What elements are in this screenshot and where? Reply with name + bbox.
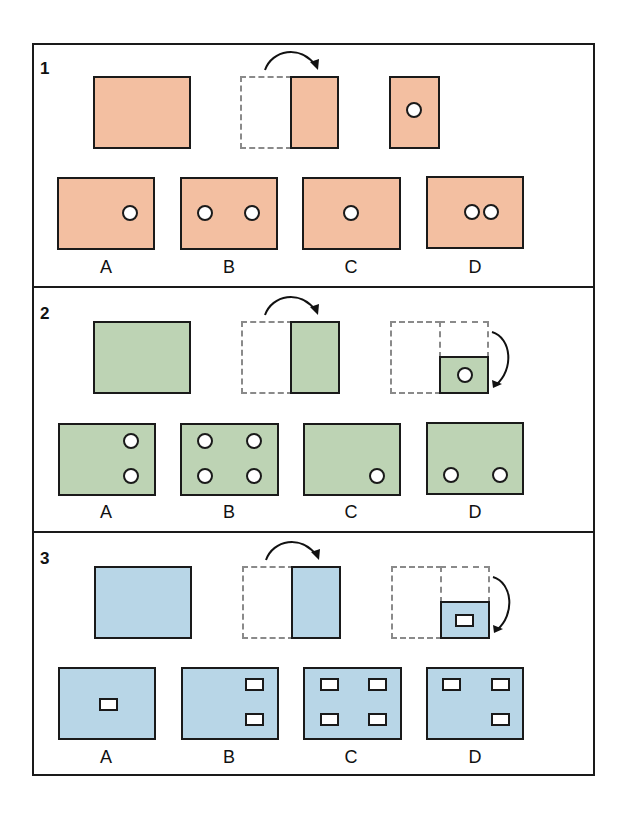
hole: [246, 468, 262, 484]
hole: [99, 698, 118, 711]
folded-paper: [290, 76, 339, 149]
hole: [491, 678, 510, 691]
fold-arrow-icon: [490, 330, 520, 390]
panel-number: 1: [40, 59, 49, 79]
hole: [492, 467, 508, 483]
unfolded-paper: [94, 566, 192, 639]
unfolded-paper: [93, 76, 191, 149]
hole: [197, 468, 213, 484]
option-b[interactable]: [180, 423, 279, 496]
panel-number: 3: [40, 549, 49, 569]
fold-arrow-icon: [261, 538, 331, 568]
hole: [320, 713, 339, 726]
option-d[interactable]: [426, 422, 524, 495]
hole: [122, 205, 138, 221]
option-a[interactable]: [58, 423, 156, 496]
hole: [491, 713, 510, 726]
hole: [245, 713, 264, 726]
hole: [483, 204, 499, 220]
hole: [368, 678, 387, 691]
option-b[interactable]: [181, 667, 279, 740]
hole: [246, 433, 262, 449]
hole: [197, 433, 213, 449]
folded-away-outline: [390, 321, 441, 394]
unfolded-paper: [93, 321, 191, 394]
folded-away-outline: [439, 321, 489, 358]
folded-paper: [290, 321, 340, 394]
folded-away-outline: [240, 76, 292, 149]
option-c[interactable]: [303, 667, 402, 740]
fold-arrow-icon: [491, 575, 521, 635]
hole: [123, 468, 139, 484]
option-a[interactable]: [57, 177, 155, 250]
folded-away-outline: [440, 566, 490, 603]
fold-arrow-icon: [260, 48, 330, 78]
hole: [123, 433, 139, 449]
option-label: B: [209, 747, 249, 768]
folded-away-outline: [241, 321, 293, 394]
hole: [244, 205, 260, 221]
hole: [464, 204, 480, 220]
hole: [443, 467, 459, 483]
fold-arrow-icon: [260, 293, 330, 323]
option-label: C: [331, 747, 371, 768]
hole: [245, 678, 264, 691]
folded-paper: [291, 566, 341, 639]
option-label: A: [86, 747, 126, 768]
option-c[interactable]: [303, 423, 401, 496]
panel-3: 3 A B C D: [0, 490, 629, 735]
hole: [369, 468, 385, 484]
option-label: D: [455, 747, 495, 768]
hole: [197, 205, 213, 221]
punch-hole: [406, 102, 422, 118]
hole: [320, 678, 339, 691]
panel-1: 1 A B C D: [0, 0, 629, 245]
hole: [442, 678, 461, 691]
hole: [368, 713, 387, 726]
folded-away-outline: [391, 566, 442, 639]
panel-2: 2 A B C D: [0, 245, 629, 490]
panel-number: 2: [40, 304, 49, 324]
folded-away-outline: [242, 566, 294, 639]
hole: [343, 205, 359, 221]
punch-hole: [457, 367, 473, 383]
punch-hole: [455, 614, 474, 627]
option-b[interactable]: [180, 177, 278, 250]
